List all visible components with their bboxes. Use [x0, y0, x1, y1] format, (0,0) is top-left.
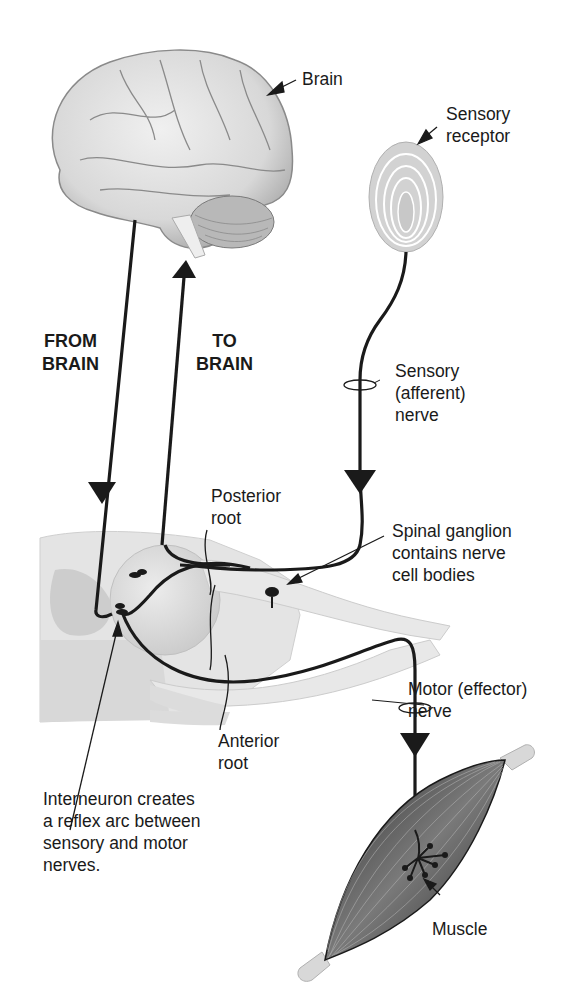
sensory-receptor-illustration	[369, 142, 443, 252]
spinal-ganglion-label-line3: cell bodies	[392, 564, 512, 586]
interneuron-label-line3: sensory and motor	[43, 832, 201, 854]
from-brain-label-line2: BRAIN	[42, 353, 99, 376]
spinal-ganglion-label-line2: contains nerve	[392, 542, 512, 564]
from-brain-label: FROM BRAIN	[42, 330, 99, 376]
anterior-root-label-line1: Anterior	[218, 730, 279, 752]
reflex-arc-diagram: Brain Sensory receptor FROM BRAIN TO BRA…	[0, 0, 582, 1002]
interneuron-label-line1: Interneuron creates	[43, 788, 201, 810]
anterior-root-label: Anterior root	[218, 730, 279, 774]
to-brain-label: TO BRAIN	[196, 330, 253, 376]
posterior-root-label: Posterior root	[211, 485, 281, 529]
sensory-nerve-label-line3: nerve	[395, 404, 466, 426]
interneuron-label-line4: nerves.	[43, 854, 201, 876]
posterior-root-label-line2: root	[211, 507, 281, 529]
to-brain-arrowhead	[172, 260, 196, 278]
from-brain-arrowhead	[88, 482, 116, 504]
muscle-label: Muscle	[432, 918, 487, 940]
interneuron-label: Interneuron creates a reflex arc between…	[43, 788, 201, 876]
spinal-ganglion-label-line1: Spinal ganglion	[392, 520, 512, 542]
sensory-nerve-label: Sensory (afferent) nerve	[395, 360, 466, 426]
spinal-ganglion-label: Spinal ganglion contains nerve cell bodi…	[392, 520, 512, 586]
posterior-root-label-line1: Posterior	[211, 485, 281, 507]
brain-illustration	[52, 50, 292, 258]
motor-nerve-label-line1: Motor (effector)	[408, 678, 527, 700]
sensory-receptor-label: Sensory receptor	[446, 103, 510, 147]
motor-nerve-label-line2: nerve	[408, 700, 527, 722]
interneuron-label-line2: a reflex arc between	[43, 810, 201, 832]
anterior-root-label-line2: root	[218, 752, 279, 774]
ganglion-pointer-icon	[288, 574, 302, 584]
to-brain-label-line2: BRAIN	[196, 353, 253, 376]
motor-nerve-label: Motor (effector) nerve	[408, 678, 527, 722]
brain-label: Brain	[302, 68, 343, 90]
sensory-nerve-label-line2: (afferent)	[395, 382, 466, 404]
sensory-arrowhead	[344, 470, 376, 494]
sensory-receptor-label-line2: receptor	[446, 125, 510, 147]
sensory-receptor-label-line1: Sensory	[446, 103, 510, 125]
sensory-nerve-label-line1: Sensory	[395, 360, 466, 382]
to-brain-label-line1: TO	[196, 330, 253, 353]
from-brain-label-line1: FROM	[42, 330, 99, 353]
motor-arrowhead	[400, 733, 430, 757]
